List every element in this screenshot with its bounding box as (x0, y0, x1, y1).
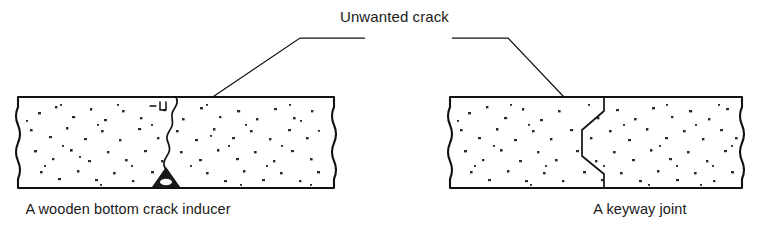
panel-wooden-bottom-crack-inducer: A wooden bottom crack inducer (16, 97, 336, 217)
slab-outline-right (448, 97, 744, 188)
crack-control-diagram: Unwanted crack (0, 0, 761, 240)
panel-keyway-joint: A keyway joint (448, 97, 744, 217)
slab-outline-left (16, 97, 336, 188)
caption-wooden-bottom-crack-inducer: A wooden bottom crack inducer (25, 201, 230, 217)
caption-keyway-joint: A keyway joint (593, 201, 686, 217)
callout-label: Unwanted crack (340, 8, 449, 25)
